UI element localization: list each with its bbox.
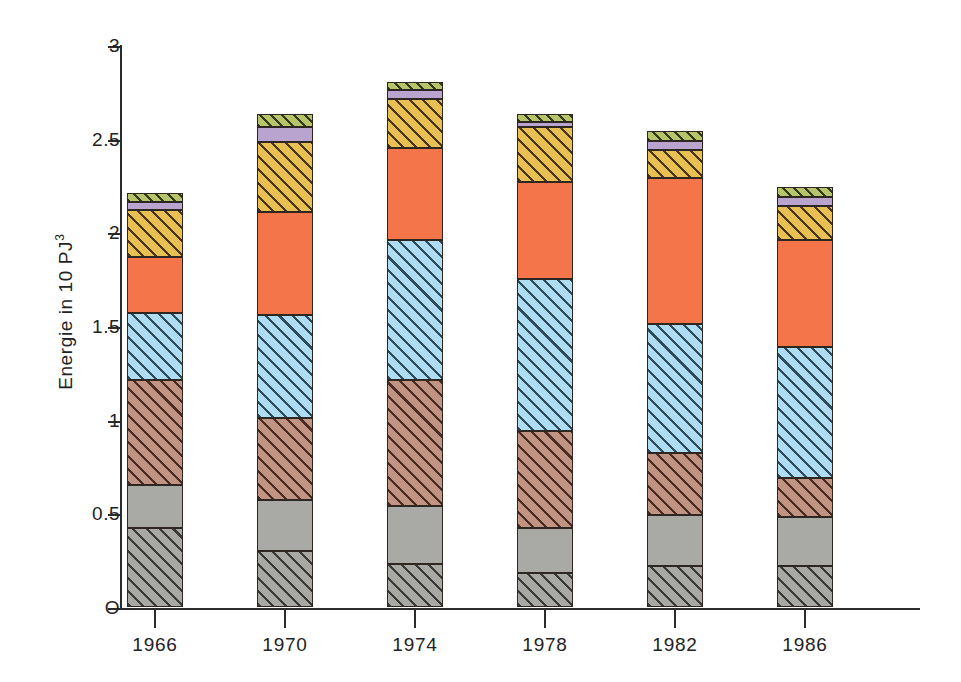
x-tick-mark-1982 [674, 610, 676, 628]
bar-segment-1986-segment-7[interactable] [777, 197, 833, 206]
x-tick-label-1978: 1978 [490, 634, 600, 656]
x-axis-line [120, 608, 920, 610]
bar-segment-1986-segment-2[interactable] [777, 517, 833, 566]
bar-segment-1986-segment-1[interactable] [777, 566, 833, 607]
bar-segment-1986-segment-5[interactable] [777, 240, 833, 347]
y-tick-label: 0.5 [60, 503, 120, 525]
bar-segment-1978-segment-2[interactable] [517, 528, 573, 573]
x-tick-mark-1974 [414, 610, 416, 628]
bar-segment-1982-segment-2[interactable] [647, 515, 703, 566]
bar-segment-1982-segment-8[interactable] [647, 131, 703, 140]
bar-segment-1970-segment-8[interactable] [257, 114, 313, 127]
y-tick-label: 3 [60, 35, 120, 57]
x-tick-label-1974: 1974 [360, 634, 470, 656]
bar-segment-1966-segment-7[interactable] [127, 202, 183, 209]
bar-segment-1970-segment-3[interactable] [257, 418, 313, 500]
bar-segment-1966-segment-6[interactable] [127, 210, 183, 257]
bar-segment-1986-segment-4[interactable] [777, 347, 833, 478]
bar-segment-1986-segment-3[interactable] [777, 478, 833, 517]
bar-segment-1974-segment-1[interactable] [387, 564, 443, 607]
x-tick-label-1982: 1982 [620, 634, 730, 656]
y-tick-label: O [60, 597, 120, 619]
bar-segment-1986-segment-8[interactable] [777, 187, 833, 196]
chart-canvas: Energie in 10 PJ3 O0.511.522.53 19661970… [0, 0, 961, 682]
bar-segment-1978-segment-7[interactable] [517, 122, 573, 128]
x-tick-mark-1970 [284, 610, 286, 628]
bar-segment-1974-segment-3[interactable] [387, 380, 443, 506]
bar-segment-1974-segment-5[interactable] [387, 148, 443, 240]
x-tick-label-1970: 1970 [230, 634, 340, 656]
x-tick-mark-1978 [544, 610, 546, 628]
bar-1970[interactable] [257, 0, 313, 608]
y-tick-label: 1.5 [60, 316, 120, 338]
x-tick-mark-1966 [154, 610, 156, 628]
y-tick-label: 1 [60, 410, 120, 432]
x-tick-label-1986: 1986 [750, 634, 860, 656]
y-tick-label: 2.5 [60, 129, 120, 151]
bar-segment-1970-segment-5[interactable] [257, 212, 313, 315]
bar-1974[interactable] [387, 0, 443, 608]
bar-segment-1970-segment-7[interactable] [257, 127, 313, 142]
bar-segment-1966-segment-8[interactable] [127, 193, 183, 202]
bar-segment-1982-segment-5[interactable] [647, 178, 703, 324]
bar-segment-1970-segment-2[interactable] [257, 500, 313, 551]
bar-segment-1982-segment-6[interactable] [647, 150, 703, 178]
bar-segment-1986-segment-6[interactable] [777, 206, 833, 240]
x-tick-mark-1986 [804, 610, 806, 628]
y-axis-line [120, 45, 122, 610]
bar-segment-1982-segment-4[interactable] [647, 324, 703, 453]
bar-segment-1978-segment-1[interactable] [517, 573, 573, 607]
bar-segment-1974-segment-8[interactable] [387, 82, 443, 89]
bar-segment-1978-segment-6[interactable] [517, 127, 573, 181]
bar-segment-1978-segment-3[interactable] [517, 431, 573, 528]
bar-segment-1966-segment-2[interactable] [127, 485, 183, 528]
bar-segment-1978-segment-5[interactable] [517, 182, 573, 279]
bar-segment-1970-segment-6[interactable] [257, 142, 313, 211]
bar-segment-1966-segment-5[interactable] [127, 257, 183, 313]
bar-segment-1974-segment-6[interactable] [387, 99, 443, 148]
x-tick-label-1966: 1966 [100, 634, 210, 656]
bar-segment-1974-segment-7[interactable] [387, 90, 443, 99]
bar-segment-1966-segment-4[interactable] [127, 313, 183, 380]
bar-segment-1982-segment-1[interactable] [647, 566, 703, 607]
bar-segment-1966-segment-3[interactable] [127, 380, 183, 485]
bar-segment-1966-segment-1[interactable] [127, 528, 183, 607]
bar-1986[interactable] [777, 0, 833, 608]
y-tick-label: 2 [60, 222, 120, 244]
bar-segment-1970-segment-1[interactable] [257, 551, 313, 607]
bar-1978[interactable] [517, 0, 573, 608]
bar-1966[interactable] [127, 0, 183, 608]
bar-segment-1974-segment-4[interactable] [387, 240, 443, 381]
bar-segment-1974-segment-2[interactable] [387, 506, 443, 564]
bar-segment-1978-segment-8[interactable] [517, 114, 573, 121]
bar-segment-1970-segment-4[interactable] [257, 315, 313, 418]
bar-segment-1982-segment-3[interactable] [647, 453, 703, 515]
bar-segment-1982-segment-7[interactable] [647, 141, 703, 150]
bar-segment-1978-segment-4[interactable] [517, 279, 573, 431]
bar-1982[interactable] [647, 0, 703, 608]
